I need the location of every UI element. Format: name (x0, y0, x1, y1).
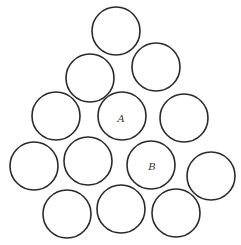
circle (187, 152, 235, 200)
circle (32, 92, 80, 140)
circle (132, 43, 180, 91)
circle (10, 142, 58, 190)
circle (64, 137, 112, 185)
circle-arrangement-diagram: A B (0, 0, 241, 245)
circle-label-a: A (116, 113, 124, 124)
circle (92, 7, 140, 55)
circle (66, 54, 114, 102)
circle (160, 94, 208, 142)
circle-label-b: B (147, 161, 155, 172)
circle (152, 189, 200, 237)
circle (97, 185, 145, 233)
circle (43, 190, 91, 238)
